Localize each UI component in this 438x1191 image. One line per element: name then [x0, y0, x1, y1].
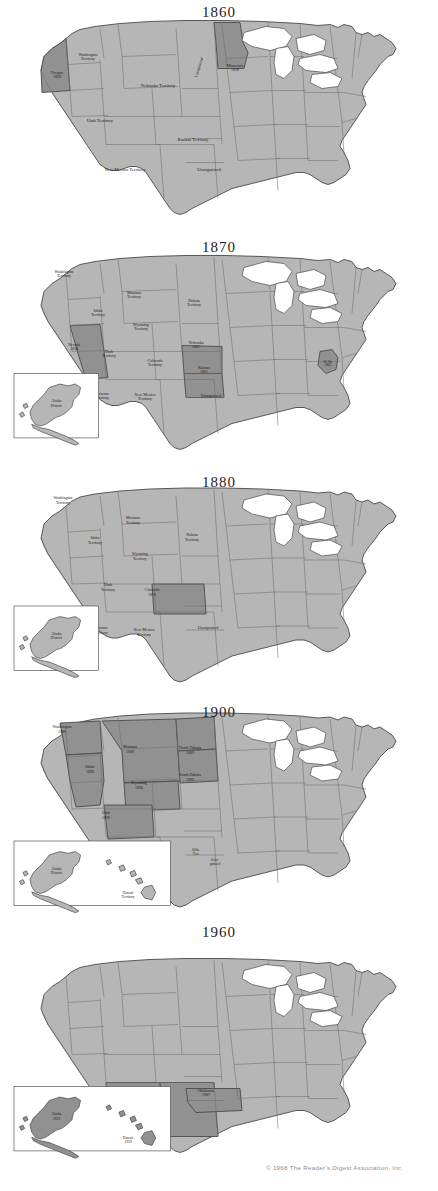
map-label-wyoming-territory: WyomingTerritory [133, 321, 149, 331]
map-1900: 1900Washington1889Montana1889North Dakot… [0, 700, 438, 920]
alaska-inset-label: AlaskaDistrict [51, 631, 62, 639]
map-label-oklahoma-territory: Okla.Terr. [192, 848, 200, 856]
map-1860: 1860WashingtonTerritoryOregon1859Nebrask… [0, 0, 438, 235]
hawaii-inset-label: HawaiiTerritory [122, 890, 135, 898]
map-1880: 1880WashingtonTerritoryMontanaTerritoryD… [0, 470, 438, 700]
alaska-inset-label: AlaskaDistrict [51, 399, 62, 407]
map-label-unorganized: Unorganized [201, 392, 222, 397]
highlight-region-oregon [41, 39, 70, 93]
map-label-utah-territory: Utah Territory [87, 118, 114, 123]
map-1880-canvas: WashingtonTerritoryMontanaTerritoryDakot… [0, 470, 438, 700]
map-1900-title: 1900 [0, 704, 438, 721]
map-1900-canvas: Washington1889Montana1889North Dakota188… [0, 700, 438, 920]
map-label-dakota-territory: DakotaTerritory [187, 297, 201, 307]
map-label-unorganized: Unor-ganized [210, 858, 221, 866]
alaska-inset: Alaska1959Hawaii1959 [14, 1087, 170, 1159]
map-label-new-mexico-territory: New Mexico Territory [104, 167, 146, 172]
map-label-unorganized: Unorganized [198, 625, 219, 630]
copyright-notice: © 1968 The Reader's Digest Association, … [266, 1164, 401, 1171]
map-1960-canvas: Arizona1912New Mexico1912Oklahoma1907Ala… [0, 920, 438, 1191]
alaska-inset: AlaskaDistrict [14, 374, 99, 446]
map-label-west-virginia: W. Va.1863 [324, 359, 333, 367]
map-1860-canvas: WashingtonTerritoryOregon1859Nebraska Te… [0, 0, 438, 235]
map-1880-title: 1880 [0, 474, 438, 491]
map-1870: 1870WashingtonTerritoryMontanaTerritoryD… [0, 235, 438, 470]
map-1870-title: 1870 [0, 239, 438, 256]
map-label-washington-territory: WashingtonTerritory [54, 268, 73, 278]
map-label-kansas-territory: Kansas Territory [178, 137, 209, 142]
map-label-washington-territory: WashingtonTerritory [78, 51, 97, 61]
alaska-inset-label: AlaskaDistrict [51, 866, 62, 874]
map-label-montana-territory: MontanaTerritory [126, 515, 140, 525]
map-label-unorganized-south: Unorganized [197, 167, 221, 172]
map-label-nebraska-territory: Nebraska Territory [141, 83, 176, 88]
map-1960: 1960Arizona1912New Mexico1912Oklahoma190… [0, 920, 438, 1191]
alaska-inset: AlaskaDistrictHawaiiTerritory [14, 841, 170, 913]
map-label-utah: Utah1896 [102, 810, 110, 820]
map-series-page: 1860WashingtonTerritoryOregon1859Nebrask… [0, 0, 438, 1191]
map-1870-canvas: WashingtonTerritoryMontanaTerritoryDakot… [0, 235, 438, 470]
map-1960-title: 1960 [0, 924, 438, 941]
highlight-region-south-dakota [178, 749, 218, 783]
map-label-washington-territory: WashingtonTerritory [53, 495, 72, 505]
map-label-dakota-territory: DakotaTerritory [185, 532, 199, 542]
highlight-region-colorado [152, 584, 206, 614]
map-label-idaho: Idaho1890 [85, 764, 94, 774]
map-label-wyoming-territory: WyomingTerritory [132, 551, 148, 561]
highlight-region-utah [104, 805, 154, 839]
alaska-inset: AlaskaDistrict [14, 606, 99, 678]
map-label-colorado-territory: ColoradoTerritory [148, 357, 163, 367]
map-label-montana-territory: MontanaTerritory [127, 289, 141, 299]
map-1860-title: 1860 [0, 4, 438, 21]
